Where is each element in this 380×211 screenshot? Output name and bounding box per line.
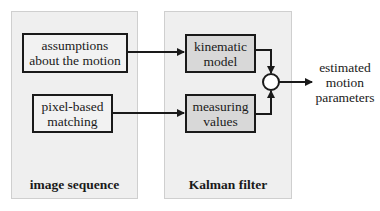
arrow-kinematic-to-sum xyxy=(256,50,271,73)
output-line3: parameters xyxy=(314,90,376,105)
output-label: estimated motion parameters xyxy=(314,60,376,105)
connector-arrows xyxy=(0,0,380,211)
arrow-measuring-to-sum xyxy=(256,91,271,114)
sum-node-circle xyxy=(263,74,279,90)
output-line1: estimated xyxy=(314,60,376,75)
output-line2: motion xyxy=(314,75,376,90)
